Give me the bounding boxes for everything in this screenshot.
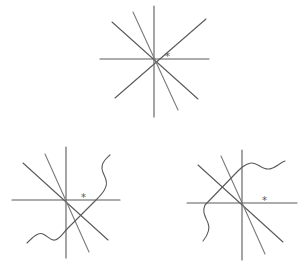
br-steep-line xyxy=(221,156,265,254)
figure-top: * xyxy=(100,6,209,117)
figure-bottom-left: * xyxy=(12,147,120,258)
bl-asterisk-marker: * xyxy=(81,192,86,203)
line-arrangement-diagram: * * * xyxy=(0,0,305,274)
bl-steep-line xyxy=(45,154,89,252)
br-wavy-pseudoline xyxy=(203,161,285,241)
top-steep-line xyxy=(133,12,178,110)
figure-bottom-right: * xyxy=(187,150,297,260)
br-asterisk-marker: * xyxy=(262,195,267,206)
top-asterisk-marker: * xyxy=(165,51,170,62)
